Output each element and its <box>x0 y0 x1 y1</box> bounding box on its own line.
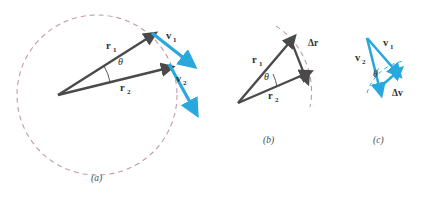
caption-panel-b: (b) <box>263 135 274 146</box>
label-r1-sub-panel-b: 1 <box>259 60 263 68</box>
label-v2-sub-panel-a: 2 <box>183 79 187 87</box>
label-delta-v-panel-c: Δv <box>392 88 403 98</box>
label-theta-panel-b: θ <box>264 71 269 82</box>
label-v2-panel-a: v <box>176 73 182 84</box>
label-r2-panel-a: r <box>120 82 125 93</box>
label-r2-sub-panel-a: 2 <box>127 88 131 96</box>
label-r2-sub-panel-b: 2 <box>275 96 279 104</box>
label-v1-panel-c: v <box>383 37 389 48</box>
physics-vector-figure: r 1 r 2 θ v 1 v 2 (a) r 1 r 2 θ Δr (b) <box>0 0 424 208</box>
caption-panel-c: (c) <box>373 135 384 146</box>
label-r1-panel-b: r <box>252 54 257 65</box>
label-v1-panel-a: v <box>166 30 172 41</box>
label-r1-panel-a: r <box>106 40 111 51</box>
figure-background <box>0 0 424 208</box>
label-theta-panel-a: θ <box>118 56 123 67</box>
label-theta-panel-c: θ <box>373 68 378 79</box>
label-r1-sub-panel-a: 1 <box>113 46 117 54</box>
label-r2-panel-b: r <box>268 90 273 101</box>
label-v1-sub-panel-a: 1 <box>173 36 177 44</box>
label-delta-r-panel-b: Δr <box>308 38 319 48</box>
label-v2-sub-panel-c: 2 <box>362 58 366 66</box>
label-v2-panel-c: v <box>355 52 361 63</box>
label-v1-sub-panel-c: 1 <box>390 43 394 51</box>
caption-panel-a: (a) <box>91 173 102 184</box>
